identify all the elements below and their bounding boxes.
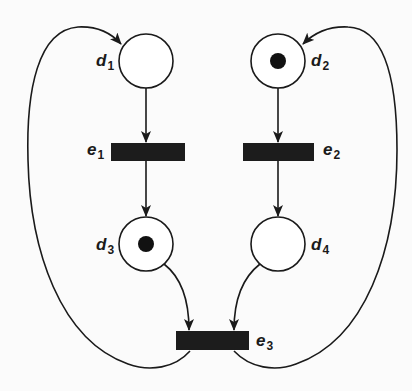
- label-d3: d3: [96, 236, 114, 256]
- petri-net-diagram: d1 d2 d3 d4 e1 e2 e3: [0, 0, 412, 391]
- label-e3: e3: [256, 332, 273, 352]
- label-e2: e2: [323, 141, 340, 161]
- label-e1: e1: [87, 141, 104, 161]
- place-d1: [119, 34, 173, 88]
- label-d1: d1: [96, 52, 114, 72]
- transition-e1: [111, 143, 185, 161]
- place-d4: [251, 217, 305, 271]
- place-d2: [251, 34, 305, 88]
- label-d2: d2: [311, 52, 329, 72]
- arc-d4-e3: [234, 264, 260, 330]
- label-d4: d4: [311, 236, 329, 256]
- transition-e3: [176, 331, 249, 350]
- diagram-svg: [0, 0, 412, 391]
- place-d3: [119, 217, 173, 271]
- token-icon: [270, 53, 286, 69]
- arc-d3-e3: [164, 264, 189, 330]
- token-icon: [138, 236, 154, 252]
- transition-e2: [243, 143, 314, 161]
